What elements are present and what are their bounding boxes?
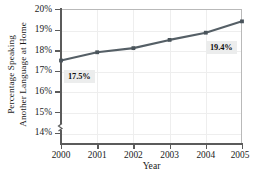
y-tick bbox=[55, 9, 61, 10]
y-tick bbox=[55, 30, 61, 31]
y-tick bbox=[55, 112, 61, 113]
x-tick-label: 2003 bbox=[160, 150, 179, 160]
y-tick bbox=[55, 50, 61, 51]
data-label-first: 17.5% bbox=[64, 70, 95, 83]
x-tick bbox=[170, 144, 171, 149]
x-tick bbox=[97, 144, 98, 149]
data-label-last: 19.4% bbox=[206, 41, 237, 54]
x-tick bbox=[133, 144, 134, 149]
x-axis-title: Year bbox=[61, 160, 242, 171]
y-tick-label: 15% bbox=[18, 107, 52, 117]
x-tick-label: 2002 bbox=[124, 150, 143, 160]
x-tick-label: 2001 bbox=[88, 150, 107, 160]
y-tick-label: 19% bbox=[18, 24, 52, 34]
x-tick bbox=[206, 144, 207, 149]
x-tick-label: 2004 bbox=[196, 150, 215, 160]
gridline-horizontal bbox=[61, 134, 241, 135]
y-axis-line bbox=[60, 8, 62, 124]
gridline-horizontal bbox=[61, 113, 241, 114]
y-tick-label: 20% bbox=[18, 4, 52, 14]
y-tick-label: 14% bbox=[18, 127, 52, 137]
y-tick-label: 17% bbox=[18, 65, 52, 75]
gridline-horizontal bbox=[61, 92, 241, 93]
y-tick bbox=[55, 133, 61, 134]
gridline-vertical bbox=[170, 10, 171, 143]
x-tick bbox=[61, 144, 62, 149]
x-tick bbox=[242, 144, 243, 149]
axis-break-icon bbox=[57, 122, 65, 132]
y-tick bbox=[55, 71, 61, 72]
x-axis-line bbox=[60, 143, 243, 145]
y-tick-label: 18% bbox=[18, 45, 52, 55]
y-tick-label: 16% bbox=[18, 86, 52, 96]
gridline-vertical bbox=[97, 10, 98, 143]
gridline-vertical bbox=[133, 10, 134, 143]
x-tick-label: 2005 bbox=[231, 150, 250, 160]
gridline-vertical bbox=[206, 10, 207, 143]
y-axis-title-line1: Percentage Speaking bbox=[6, 22, 18, 127]
gridline-horizontal bbox=[61, 31, 241, 32]
chart-container: Percentage Speaking Another Language at … bbox=[0, 0, 258, 176]
y-tick bbox=[55, 91, 61, 92]
x-tick-label: 2000 bbox=[52, 150, 71, 160]
